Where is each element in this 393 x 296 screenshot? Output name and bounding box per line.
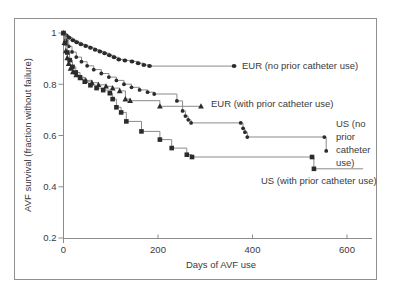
y-tick-label: 0.6 bbox=[43, 130, 56, 141]
square-marker bbox=[63, 41, 68, 46]
circle-marker bbox=[79, 42, 84, 46]
square-marker bbox=[70, 65, 75, 70]
square-marker bbox=[139, 129, 144, 134]
circle-marker bbox=[147, 64, 152, 68]
circle-marker bbox=[232, 64, 237, 68]
circle-marker bbox=[107, 53, 112, 57]
dot-marker bbox=[70, 50, 74, 54]
dot-marker bbox=[175, 99, 179, 103]
dot-marker bbox=[239, 121, 243, 125]
square-marker bbox=[119, 110, 124, 115]
square-marker bbox=[67, 58, 72, 63]
dot-marker bbox=[74, 55, 78, 59]
figure: 10.80.60.40.20200400600 AVF survival (fr… bbox=[0, 0, 393, 296]
square-marker bbox=[169, 146, 174, 151]
dot-marker bbox=[115, 79, 119, 83]
dot-marker bbox=[322, 135, 326, 139]
dot-marker bbox=[189, 121, 193, 125]
square-marker bbox=[61, 31, 66, 36]
square-marker bbox=[82, 79, 87, 84]
square-marker bbox=[88, 83, 93, 88]
circle-marker bbox=[93, 48, 98, 52]
square-marker bbox=[312, 167, 317, 172]
label-us-no-prior: US (no prior catheter use) bbox=[336, 117, 382, 169]
dot-marker bbox=[152, 92, 156, 96]
y-tick-label: 0.2 bbox=[43, 232, 56, 243]
dot-marker bbox=[245, 135, 249, 139]
x-tick-label: 400 bbox=[245, 244, 261, 255]
dot-marker bbox=[324, 149, 328, 153]
label-us-with-prior: US (with prior catheter use) bbox=[261, 174, 377, 187]
circle-marker bbox=[102, 51, 107, 55]
square-marker bbox=[310, 155, 315, 160]
circle-marker bbox=[74, 40, 79, 44]
dot-marker bbox=[85, 64, 89, 68]
circle-marker bbox=[123, 58, 128, 62]
square-marker bbox=[124, 119, 129, 124]
square-marker bbox=[65, 50, 70, 55]
curve-line bbox=[64, 33, 235, 66]
dot-marker bbox=[92, 68, 96, 72]
dot-marker bbox=[243, 130, 247, 134]
circle-marker bbox=[141, 63, 146, 67]
label-eur-with-prior: EUR (with prior catheter use) bbox=[211, 97, 333, 110]
dot-marker bbox=[80, 60, 84, 64]
square-marker bbox=[190, 155, 195, 160]
y-tick-label: 0.4 bbox=[43, 181, 56, 192]
square-marker bbox=[94, 86, 99, 91]
square-marker bbox=[78, 75, 83, 80]
dot-marker bbox=[241, 126, 245, 130]
circle-marker bbox=[83, 44, 88, 48]
label-eur-no-prior: EUR (no prior catheter use) bbox=[242, 59, 358, 72]
circle-marker bbox=[97, 49, 102, 53]
square-marker bbox=[110, 97, 115, 102]
dot-marker bbox=[99, 72, 103, 76]
square-marker bbox=[73, 70, 78, 75]
dot-marker bbox=[130, 85, 134, 89]
dot-marker bbox=[122, 82, 126, 86]
survival-chart: 10.80.60.40.20200400600 bbox=[0, 0, 393, 296]
square-marker bbox=[158, 137, 163, 142]
circle-marker bbox=[116, 57, 121, 61]
y-tick-label: 1 bbox=[51, 27, 56, 38]
y-tick-label: 0.8 bbox=[43, 79, 56, 90]
series-eur-with-prior-catheter-use bbox=[61, 30, 204, 109]
dot-marker bbox=[181, 109, 185, 113]
circle-marker bbox=[88, 46, 93, 50]
circle-marker bbox=[112, 55, 117, 59]
x-tick-label: 600 bbox=[339, 244, 355, 255]
dot-marker bbox=[146, 90, 150, 94]
dot-marker bbox=[107, 75, 111, 79]
square-marker bbox=[101, 88, 106, 93]
circle-marker bbox=[130, 59, 135, 63]
dot-marker bbox=[184, 114, 188, 118]
dot-marker bbox=[138, 88, 142, 92]
x-tick-label: 200 bbox=[150, 244, 166, 255]
dot-marker bbox=[186, 118, 190, 122]
x-axis-title: Days of AVF use bbox=[64, 259, 378, 270]
y-axis-title: AVF survival (fraction without failure) bbox=[22, 58, 33, 212]
circle-marker bbox=[136, 61, 141, 65]
square-marker bbox=[114, 105, 119, 110]
x-tick-label: 0 bbox=[61, 244, 66, 255]
square-marker bbox=[185, 152, 190, 157]
square-marker bbox=[108, 91, 113, 96]
